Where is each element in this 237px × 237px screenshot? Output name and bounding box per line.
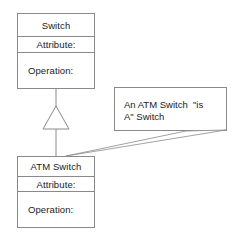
generalization-arrowhead-icon xyxy=(43,106,69,129)
class-attributes-switch: Attribute: xyxy=(18,36,94,52)
note-leader-line xyxy=(66,130,226,156)
class-name-atm-switch: ATM Switch xyxy=(18,157,94,176)
note-text-line-1: An ATM Switch "is xyxy=(124,99,226,111)
note-text-line-2: A" Switch xyxy=(124,111,226,123)
class-box-atm-switch[interactable]: ATM Switch Attribute: Operation: xyxy=(17,156,95,228)
uml-class-diagram: Switch Attribute: Operation: ATM Switch … xyxy=(0,0,237,237)
class-operations-atm-switch: Operation: xyxy=(18,191,94,227)
class-attributes-atm-switch: Attribute: xyxy=(18,176,94,191)
note-box[interactable]: An ATM Switch "is A" Switch xyxy=(114,87,227,131)
class-name-switch: Switch xyxy=(18,14,94,36)
class-operations-switch: Operation: xyxy=(18,52,94,88)
class-box-switch[interactable]: Switch Attribute: Operation: xyxy=(17,13,95,89)
